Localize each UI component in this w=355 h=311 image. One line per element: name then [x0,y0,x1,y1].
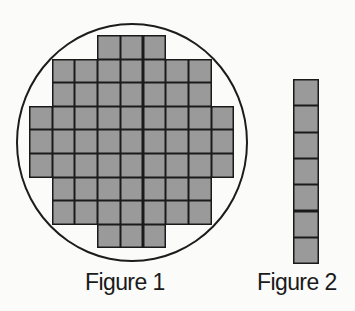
grid-square [120,106,144,131]
grid-square [29,106,53,131]
grid-square [52,82,76,107]
grid-square [165,129,189,154]
grid-square [165,59,189,84]
column-square [293,79,319,106]
grid-square [29,129,53,154]
grid-square [74,59,98,84]
column-square [293,237,319,264]
grid-square [188,153,212,178]
grid-square [120,224,144,249]
grid-square [52,153,76,178]
grid-square [74,177,98,202]
grid-square [188,177,212,202]
grid-square [97,200,121,225]
grid-square [188,82,212,107]
grid-square [97,106,121,131]
grid-square [97,59,121,84]
grid-square [97,129,121,154]
grid-square [120,200,144,225]
grid-square [143,177,167,202]
figure-1-caption: Figure 1 [85,271,165,294]
grid-square [97,82,121,107]
grid-square [120,59,144,84]
diagram: Figure 1 Figure 2 [0,0,355,311]
grid-square [52,106,76,131]
column-square [293,211,319,238]
grid-square [120,153,144,178]
grid-square [52,129,76,154]
grid-square [188,200,212,225]
grid-square [211,129,235,154]
grid-square [165,106,189,131]
grid-square [52,200,76,225]
grid-square [165,153,189,178]
grid-square [120,177,144,202]
grid-square [143,59,167,84]
grid-square [97,224,121,249]
grid-square [188,59,212,84]
grid-square [120,129,144,154]
grid-square [97,35,121,60]
grid-square [120,82,144,107]
grid-square [97,153,121,178]
grid-square [74,82,98,107]
grid-square [74,129,98,154]
grid-square [165,200,189,225]
grid-square [97,177,121,202]
grid-square [74,106,98,131]
grid-square [74,200,98,225]
grid-square [211,153,235,178]
grid-square [29,153,53,178]
grid-square [74,153,98,178]
grid-square [143,224,167,249]
grid-square [143,35,167,60]
column-square [293,132,319,159]
grid-square [143,153,167,178]
grid-square [211,106,235,131]
figure-2-caption: Figure 2 [257,271,337,294]
grid-square [165,177,189,202]
grid-square [188,129,212,154]
column-square [293,158,319,185]
grid-square [52,59,76,84]
grid-square [165,82,189,107]
grid-square [143,129,167,154]
column-square [293,105,319,132]
grid-square [120,35,144,60]
grid-square [143,106,167,131]
grid-square [143,200,167,225]
grid-square [188,106,212,131]
column-square [293,184,319,211]
grid-square [52,177,76,202]
grid-square [143,82,167,107]
